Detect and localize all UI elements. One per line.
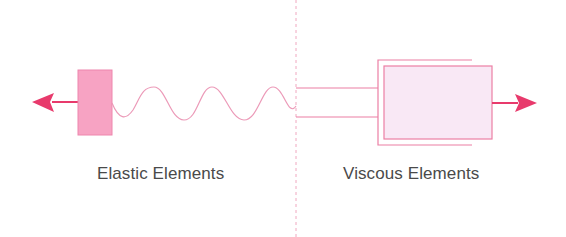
diagram-graphics <box>0 0 566 237</box>
piston-rod <box>296 88 378 117</box>
viscoelastic-diagram: Elastic Elements Viscous Elements <box>0 0 566 237</box>
viscous-elements-label: Viscous Elements <box>343 164 479 184</box>
dashpot-piston <box>384 66 492 139</box>
right-arrow-icon <box>492 94 537 112</box>
elastic-elements-label: Elastic Elements <box>97 164 224 184</box>
elastic-mass-block <box>78 70 112 135</box>
spring-icon <box>112 87 296 120</box>
left-arrow-icon <box>32 93 79 112</box>
